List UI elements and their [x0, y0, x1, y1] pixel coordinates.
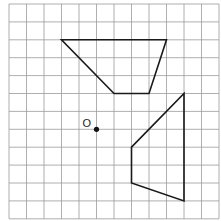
grid-diagram: O: [0, 0, 221, 221]
grid: [9, 4, 219, 219]
point-o-dot: [94, 127, 99, 132]
point-o-label: O: [83, 117, 92, 129]
shapes: [62, 40, 185, 201]
